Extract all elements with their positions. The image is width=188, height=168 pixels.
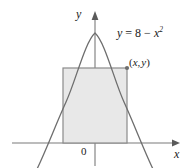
equation-lhs: y (117, 26, 122, 40)
equation-label: y = 8 − x2 (117, 27, 163, 39)
math-figure-graph: y x 0 y = 8 − x2 (x, y) (0, 0, 188, 168)
origin-label: 0 (81, 146, 87, 157)
inscribed-rectangle (63, 68, 127, 143)
y-axis-label: y (76, 8, 81, 20)
point-coordinate-label: (x, y) (129, 57, 150, 68)
y-axis-arrow-icon (92, 11, 99, 20)
equation-equals: = (125, 26, 132, 40)
x-axis-label: x (174, 148, 179, 160)
equation-constant: 8 (135, 26, 141, 40)
equation-minus: − (144, 26, 151, 40)
point-paren-close: ) (146, 56, 150, 68)
equation-exponent: 2 (159, 25, 163, 34)
x-axis-arrow-icon (172, 140, 180, 147)
point-comma: , (138, 56, 141, 68)
